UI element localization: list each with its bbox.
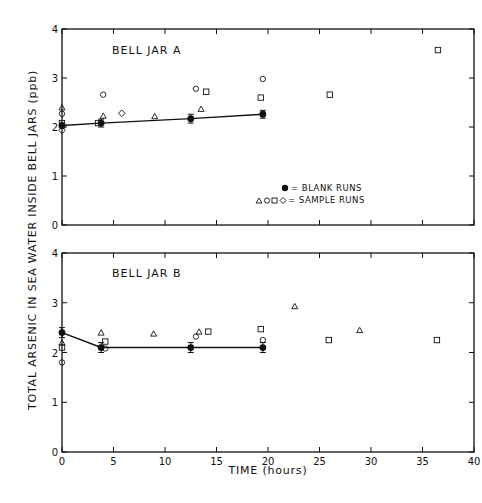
data-series	[59, 47, 441, 133]
y-axis-title: TOTAL ARSENIC IN SEA WATER INSIDE BELL J…	[26, 70, 39, 411]
y-tick-label: 4	[52, 24, 58, 35]
sample-triangle-point	[152, 113, 158, 118]
x-tick-label: 5	[110, 456, 116, 467]
y-tick-label: 4	[52, 248, 58, 259]
sample-triangle-point	[198, 106, 204, 111]
legend-sample-markers-icon	[256, 198, 286, 204]
y-tick-label: 1	[52, 171, 58, 182]
legend-blank-marker-icon	[282, 185, 288, 191]
y-tick-label: 2	[52, 122, 58, 133]
sample-square-point	[434, 337, 439, 342]
legend-sample-label: = SAMPLE RUNS	[288, 195, 365, 205]
blank-run-point	[187, 344, 194, 351]
x-tick-label: 15	[210, 456, 223, 467]
sample-circle-point	[193, 334, 198, 339]
x-tick-label: 25	[313, 456, 326, 467]
y-tick-label: 2	[52, 348, 58, 359]
sample-triangle-point	[357, 327, 363, 332]
y-tick-label: 3	[52, 73, 58, 84]
sample-square-point	[327, 92, 332, 97]
sample-circle-point	[193, 86, 198, 91]
sample-triangle-point	[292, 303, 298, 308]
blank-runs-line	[62, 114, 263, 125]
sample-triangle-point	[100, 113, 106, 118]
bell-jar-a-panel: BELL JAR A 01234 = BLANK RUNS = SAMPLE R…	[52, 24, 474, 231]
x-axis-ticks: 0510152025303540	[59, 253, 481, 467]
sample-circle-point	[101, 92, 106, 97]
x-axis-title: TIME (hours)	[227, 464, 307, 477]
sample-square-point	[204, 89, 209, 94]
panel-title: BELL JAR B	[112, 267, 182, 280]
sample-square-point	[103, 339, 108, 344]
data-series	[59, 303, 440, 365]
sample-triangle-point	[151, 331, 157, 336]
sample-square-point	[326, 337, 331, 342]
sample-square-point	[435, 47, 440, 52]
x-axis-ticks	[62, 29, 474, 225]
x-tick-label: 10	[159, 456, 172, 467]
blank-run-point	[259, 111, 266, 118]
sample-diamond-point	[118, 110, 125, 117]
x-tick-label: 40	[468, 456, 481, 467]
sample-triangle-point	[196, 329, 202, 334]
blank-run-point	[187, 115, 194, 122]
arsenic-bell-jar-chart: BELL JAR A 01234 = BLANK RUNS = SAMPLE R…	[0, 0, 482, 503]
panel-title: BELL JAR A	[112, 44, 182, 57]
legend-blank-label: = BLANK RUNS	[291, 183, 362, 193]
sample-triangle-point	[98, 330, 104, 335]
y-tick-label: 3	[52, 298, 58, 309]
blank-run-point	[259, 344, 266, 351]
y-tick-label: 0	[52, 220, 58, 231]
sample-square-point	[258, 326, 263, 331]
x-tick-label: 0	[59, 456, 65, 467]
sample-square-point	[258, 95, 263, 100]
blank-runs-line	[62, 333, 263, 348]
y-tick-label: 0	[52, 447, 58, 458]
sample-square-point	[206, 329, 211, 334]
x-tick-label: 30	[365, 456, 378, 467]
bell-jar-b-panel: BELL JAR B 01234 0510152025303540	[52, 248, 481, 467]
blank-run-point	[59, 329, 66, 336]
plot-frame	[62, 253, 474, 452]
plot-frame	[62, 29, 474, 225]
sample-circle-point	[260, 337, 265, 342]
sample-circle-point	[260, 76, 265, 81]
legend: = BLANK RUNS = SAMPLE RUNS	[256, 183, 365, 205]
x-tick-label: 35	[416, 456, 429, 467]
blank-run-point	[98, 344, 105, 351]
y-tick-label: 1	[52, 397, 58, 408]
